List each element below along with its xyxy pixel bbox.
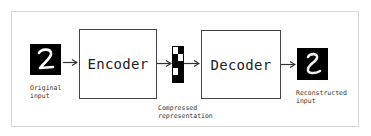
arrow-input-to-encoder: [63, 58, 78, 67]
compressed-representation-label: Compressed representation: [158, 104, 213, 120]
arrow-right-icon: [157, 59, 172, 68]
arrow-right-icon: [63, 58, 78, 67]
digit-two-icon: [297, 48, 328, 80]
original-input-label: Original input: [30, 84, 61, 100]
arrow-right-icon: [281, 60, 296, 69]
compressed-representation-grid: [172, 46, 184, 83]
arrow-right-icon: [184, 59, 200, 68]
reconstructed-input-image: [297, 48, 328, 80]
original-input-label-line1: Original: [30, 84, 61, 92]
code-cell: [178, 75, 183, 82]
digit-two-icon: [30, 44, 61, 75]
arrow-decoder-to-output: [281, 60, 296, 69]
encoder-box: Encoder: [79, 29, 157, 99]
reconstructed-label-line2: input: [296, 97, 316, 105]
arrow-code-to-decoder: [184, 59, 200, 68]
code-cell: [178, 68, 183, 75]
encoder-label: Encoder: [87, 56, 148, 72]
arrow-encoder-to-code: [157, 59, 172, 68]
reconstructed-label-line1: Reconstructed: [296, 89, 347, 97]
compressed-label-line2: representation: [158, 112, 213, 120]
reconstructed-input-label: Reconstructed input: [296, 89, 347, 105]
compressed-label-line1: Compressed: [158, 104, 197, 112]
code-cell: [178, 61, 183, 68]
decoder-label: Decoder: [210, 57, 271, 73]
decoder-box: Decoder: [201, 30, 281, 99]
code-cell: [178, 54, 183, 61]
original-input-image: [30, 44, 61, 75]
code-cell: [178, 47, 183, 54]
original-input-label-line2: input: [30, 92, 50, 100]
